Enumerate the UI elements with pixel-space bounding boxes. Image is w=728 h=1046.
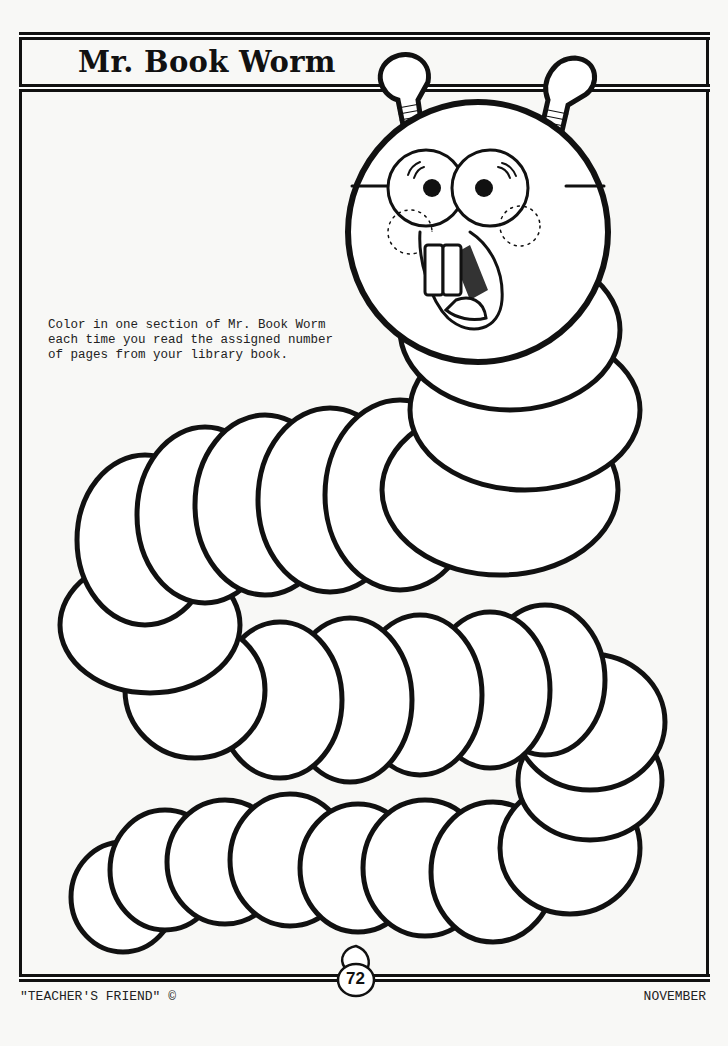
publisher-name: "TEACHER'S FRIEND": [20, 989, 160, 1004]
instruction-line: each time you read the assigned number: [48, 333, 368, 348]
publisher-credit: "TEACHER'S FRIEND" ©: [20, 989, 176, 1004]
page-number: 72: [346, 969, 365, 989]
month-label: NOVEMBER: [644, 989, 706, 1004]
instructions-text: Color in one section of Mr. Book Worm ea…: [48, 318, 368, 363]
instruction-line: Color in one section of Mr. Book Worm: [48, 318, 368, 333]
book-worm-illustration: [0, 0, 728, 1046]
instruction-line: of pages from your library book.: [48, 348, 368, 363]
copyright-icon: ©: [168, 989, 176, 1004]
